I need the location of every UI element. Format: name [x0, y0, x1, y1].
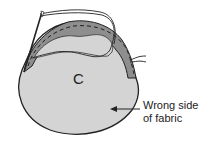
callout-label-line2: of fabric — [143, 112, 182, 124]
piece-label: C — [73, 70, 84, 87]
callout-label-line1: Wrong side — [143, 99, 198, 111]
